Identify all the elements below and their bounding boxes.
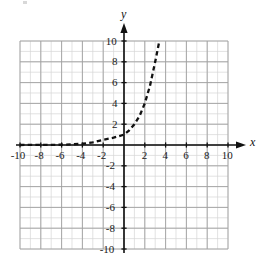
x-axis-label: x — [250, 136, 255, 148]
graph-figure: x y -10-8-6-4-2246810 108642-2-4-6-8-10 — [0, 0, 259, 264]
y-tick-label: 8 — [112, 56, 118, 67]
x-tick-label: -2 — [97, 150, 106, 161]
y-tick-label: -4 — [106, 181, 115, 192]
y-axis-label: y — [121, 8, 126, 20]
y-tick-label: 10 — [106, 36, 117, 47]
y-tick-label: 6 — [112, 77, 118, 88]
x-tick-label: -8 — [35, 150, 44, 161]
x-tick-label: -6 — [55, 150, 64, 161]
y-tick-label: -8 — [106, 223, 115, 234]
x-tick-label: 10 — [222, 150, 233, 161]
axis-lines — [16, 23, 246, 253]
x-tick-label: 6 — [183, 150, 189, 161]
y-tick-label: -6 — [106, 202, 115, 213]
y-tick-label: -10 — [100, 244, 115, 255]
x-tick-label: 4 — [163, 150, 169, 161]
y-tick-label: -2 — [106, 160, 115, 171]
x-tick-label: -4 — [76, 150, 85, 161]
coordinate-plane-svg — [0, 0, 259, 264]
y-tick-label: 4 — [112, 98, 118, 109]
y-tick-label: 2 — [112, 119, 118, 130]
x-tick-label: 8 — [204, 150, 210, 161]
x-tick-label: -10 — [11, 150, 26, 161]
x-tick-label: 2 — [142, 150, 148, 161]
